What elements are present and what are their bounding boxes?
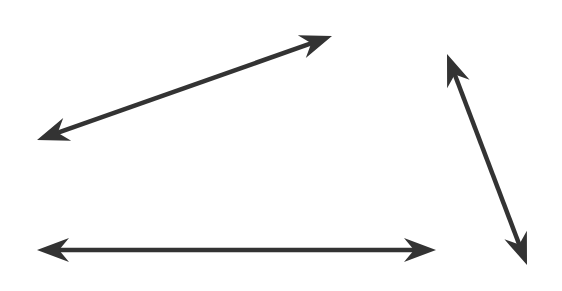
steep-line-descending-stroke xyxy=(454,73,520,247)
diagram-canvas xyxy=(0,0,562,291)
diagonal-line-rising xyxy=(37,35,332,140)
lines-layer xyxy=(37,35,527,265)
horizontal-line xyxy=(37,238,436,262)
diagonal-line-rising-stroke xyxy=(56,43,313,134)
steep-line-descending xyxy=(447,54,527,265)
